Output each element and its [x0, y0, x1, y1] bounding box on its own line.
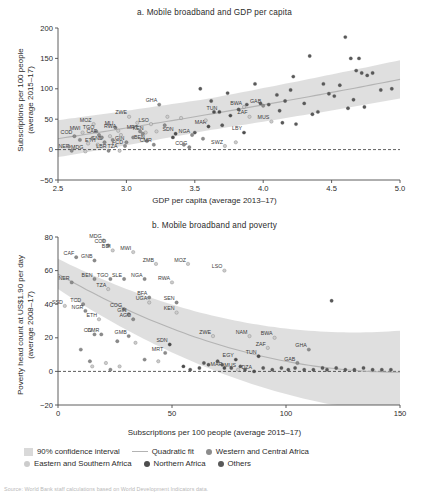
data-point [287, 368, 290, 371]
data-point [100, 136, 103, 139]
data-point-label: GMB [115, 329, 128, 335]
data-point-label: RWA [104, 123, 117, 129]
data-point: NGA [131, 272, 146, 281]
data-point [346, 107, 349, 110]
data-point [371, 368, 374, 371]
panel-a-plot: CODNERMWIMDGMOZTGOCAFETHGNBLBRMLIRWATZAF… [0, 0, 429, 215]
data-point [243, 368, 246, 371]
data-point: RWA [158, 275, 174, 284]
data-point-label: KEN [164, 305, 175, 311]
data-point-label: TCD [70, 297, 81, 303]
x-axis-tick-label: 3.0 [121, 184, 132, 193]
data-point-label: SLE [112, 272, 122, 278]
y-axis-tick-label: 80 [45, 233, 53, 242]
data-point [216, 360, 219, 363]
data-point [280, 366, 283, 369]
data-point [166, 115, 169, 118]
data-point-label: LBR [96, 143, 106, 149]
data-point [379, 88, 382, 91]
data-point [210, 99, 213, 102]
data-point: SSD [52, 299, 67, 308]
figure-source-note: Source: World Bank staff calculations ba… [4, 486, 208, 492]
data-point-label: CAF [64, 250, 75, 256]
data-point [221, 124, 224, 127]
data-point [281, 121, 284, 124]
data-point [78, 138, 81, 141]
data-point-label: NGR [72, 304, 84, 310]
legend-item-northern-africa: Northern Africa [144, 459, 206, 468]
legend-item-quadratic-fit: Quadratic fit [132, 447, 194, 456]
data-point [294, 122, 297, 125]
data-point [371, 71, 374, 74]
legend-label-2: Western and Central Africa [216, 447, 309, 456]
data-point [141, 132, 144, 135]
data-point-label: SDN [157, 337, 168, 343]
x-axis-tick-label: 3.5 [190, 184, 201, 193]
data-point: LSO [212, 263, 226, 272]
data-point-label: TGO [97, 272, 108, 278]
data-point [88, 360, 91, 363]
legend-item-western-central-africa: Western and Central Africa [206, 447, 309, 456]
data-point-label: MUS [258, 114, 270, 120]
data-point [311, 113, 314, 116]
data-point [245, 103, 248, 106]
data-point [79, 348, 82, 351]
y-axis-tick-label: 50 [45, 115, 53, 124]
data-point-label: AGO [119, 312, 131, 318]
x-axis-tick-label: 150 [394, 409, 407, 418]
y-axis-tick-label: −50 [40, 176, 53, 185]
data-point [262, 366, 265, 369]
data-point-label: RWA [158, 275, 171, 281]
data-point-label: ZMB [143, 257, 155, 263]
y-axis-tick-label: 100 [40, 84, 53, 93]
data-point-label: MOZ [174, 257, 187, 263]
data-point-label: MWI [120, 245, 131, 251]
data-point [157, 360, 160, 363]
data-point-label: GHA [295, 342, 307, 348]
data-point [363, 105, 366, 108]
data-point-label: BDI [102, 243, 111, 249]
data-point [91, 365, 94, 368]
data-point: GHA [146, 97, 161, 106]
data-point [333, 94, 336, 97]
data-point-label: TUN [207, 105, 218, 111]
others-dot-icon [218, 461, 224, 467]
data-point: ZMB [143, 257, 158, 266]
data-point [118, 365, 121, 368]
y-axis-tick-label: 0 [49, 145, 53, 154]
data-point [239, 365, 242, 368]
data-point [204, 119, 207, 122]
data-point-label: NGA [131, 272, 143, 278]
data-point [362, 366, 365, 369]
x-axis-tick-label: 4.0 [258, 184, 269, 193]
data-point [355, 69, 358, 72]
legend-label-3: Eastern and Southern Africa [34, 459, 132, 468]
wca-dot-icon [206, 449, 212, 455]
data-point [360, 71, 363, 74]
data-point-label: SWZ [211, 139, 224, 145]
data-point [292, 75, 295, 78]
data-point [198, 366, 201, 369]
data-point [91, 137, 94, 140]
x-axis-tick-label: 100 [280, 409, 293, 418]
data-point-label: ZWE [115, 109, 127, 115]
data-point [338, 84, 341, 87]
data-point-label: CAF [86, 128, 97, 134]
data-point-label: ZAF [256, 341, 267, 347]
y-axis-tick-label: 60 [45, 266, 53, 275]
x-axis-tick-label: 50 [168, 409, 176, 418]
data-point-label: GAB [284, 356, 296, 362]
data-point [207, 363, 210, 366]
data-point [111, 138, 114, 141]
x-axis-tick-label: 5.0 [395, 184, 406, 193]
data-point [349, 57, 352, 60]
data-point: CAF [64, 250, 78, 259]
data-point [380, 368, 383, 371]
data-point [182, 365, 185, 368]
data-point: SWZ [211, 139, 226, 148]
data-point [132, 136, 135, 139]
data-point [229, 114, 232, 117]
data-point-label: KEN [133, 125, 144, 131]
data-point-label: NAM [236, 329, 248, 335]
data-point [109, 368, 112, 371]
